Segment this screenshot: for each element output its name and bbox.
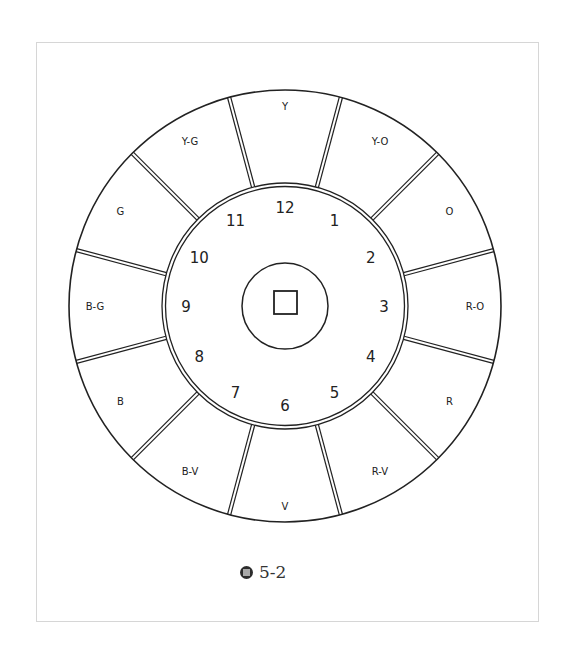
clock-number: 11 <box>226 212 245 230</box>
clock-number: 10 <box>190 249 209 267</box>
clock-number: 2 <box>366 249 376 267</box>
clock-number: 7 <box>231 384 241 402</box>
segment-label: R <box>446 396 453 407</box>
clock-number: 4 <box>366 348 376 366</box>
figure-caption: 5-2 <box>240 562 286 582</box>
clock-number: 5 <box>330 384 340 402</box>
segment-divider <box>228 424 252 514</box>
segment-divider <box>76 252 166 276</box>
segment-divider <box>133 152 199 218</box>
segment-divider <box>318 424 342 514</box>
hub-square <box>274 291 297 314</box>
segment-divider <box>318 98 342 188</box>
segment-divider <box>131 154 197 220</box>
segment-divider <box>315 425 339 515</box>
segment-divider <box>77 249 167 273</box>
segment-divider <box>76 336 166 360</box>
segment-divider <box>231 97 255 187</box>
segment-divider <box>404 336 494 360</box>
clock-number: 9 <box>181 298 191 316</box>
segment-label: O <box>446 206 454 217</box>
segment-divider <box>228 98 252 188</box>
clock-number: 12 <box>275 199 294 217</box>
clock-number: 8 <box>194 348 204 366</box>
segment-label: R-V <box>372 466 389 477</box>
caption-label: 5-2 <box>259 562 286 582</box>
segment-divider <box>373 154 439 220</box>
segment-divider <box>77 339 167 363</box>
segment-divider <box>371 152 437 218</box>
segment-divider <box>403 249 493 273</box>
segment-divider <box>131 392 197 458</box>
segment-label: B-G <box>86 301 105 312</box>
segment-label: G <box>117 206 125 217</box>
segment-label: R-O <box>466 301 484 312</box>
outer-circle <box>69 90 501 522</box>
segment-divider <box>315 97 339 187</box>
segment-label: B-V <box>182 466 199 477</box>
segment-divider <box>373 392 439 458</box>
segment-divider <box>404 252 494 276</box>
segment-label: Y-O <box>371 136 389 147</box>
figure-icon <box>240 566 253 579</box>
segment-divider <box>403 339 493 363</box>
clock-number: 1 <box>330 212 340 230</box>
hub-circle <box>242 263 328 349</box>
ring-inner-line <box>166 187 405 426</box>
clock-number: 3 <box>379 298 389 316</box>
segment-divider <box>231 425 255 515</box>
segment-label: Y-G <box>181 136 199 147</box>
segment-divider <box>133 394 199 460</box>
ring-outer-line <box>162 183 408 429</box>
segment-label: B <box>117 396 124 407</box>
clock-number: 6 <box>280 397 290 415</box>
segment-label: V <box>282 501 289 512</box>
segment-divider <box>371 394 437 460</box>
segment-label: Y <box>281 101 289 112</box>
